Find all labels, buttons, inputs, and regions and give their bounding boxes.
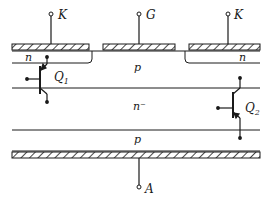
n-right-region-boundary: [185, 51, 260, 63]
cathode-right-contact: [189, 44, 260, 50]
terminal-a-node: [137, 185, 141, 189]
region-nminus-label: n⁻: [133, 100, 146, 113]
region-n-left-label: n: [25, 51, 32, 64]
terminal-k-left-node: [49, 12, 53, 16]
region-p-bottom-label: p: [134, 133, 141, 146]
terminal-k-left-label: K: [57, 8, 68, 22]
terminal-g-label: G: [146, 8, 156, 22]
region-p-top-label: p: [134, 61, 141, 74]
cathode-left-contact: [12, 44, 89, 50]
terminal-k-right-node: [226, 12, 230, 16]
terminal-a-label: A: [144, 182, 154, 196]
anode-contact: [12, 152, 260, 158]
transistor-q2-label: Q2: [245, 101, 260, 117]
top-metal-contacts: [12, 44, 260, 50]
transistor-q1-label: Q1: [54, 70, 69, 86]
diagram: K G K A n p n n⁻ p Q1 Q: [0, 0, 271, 203]
n-left-region-boundary: [12, 51, 92, 63]
terminal-k-right-label: K: [233, 8, 244, 22]
terminal-g-node: [137, 12, 141, 16]
gate-contact: [103, 44, 175, 50]
region-n-right-label: n: [239, 51, 246, 64]
